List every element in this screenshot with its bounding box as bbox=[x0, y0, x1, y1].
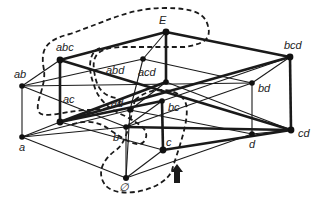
label-d: d bbox=[249, 138, 256, 150]
edge-thick-abc-E bbox=[60, 32, 166, 60]
node-ad bbox=[127, 107, 133, 113]
label-acd: acd bbox=[138, 66, 157, 78]
node-acd bbox=[163, 79, 169, 85]
node-a bbox=[19, 134, 25, 140]
node-ab bbox=[19, 83, 25, 89]
edge-bd-bcd bbox=[252, 57, 290, 83]
thin-edges bbox=[22, 32, 291, 178]
edge-thick-b-cd bbox=[126, 127, 291, 130]
edge-thick-c-cd bbox=[163, 130, 291, 150]
node-bc bbox=[159, 98, 165, 104]
edge-c-empty bbox=[126, 150, 163, 178]
label-ad: ad bbox=[111, 97, 124, 109]
node-abc bbox=[57, 57, 64, 64]
edge-a-empty bbox=[22, 137, 126, 178]
edge-thick-E-bcd bbox=[166, 32, 290, 57]
label-cd: cd bbox=[298, 127, 311, 139]
label-a: a bbox=[19, 141, 25, 153]
edge-thick-bc-c bbox=[162, 101, 163, 150]
node-ac bbox=[57, 119, 64, 126]
label-E: E bbox=[159, 14, 167, 26]
node-bcd bbox=[287, 54, 294, 61]
label-bcd: bcd bbox=[284, 39, 303, 51]
hasse-diagram: Eabcabdbcdabacdbdcdacadbcabcd∅ bbox=[0, 0, 323, 208]
thick-edges bbox=[60, 32, 291, 150]
label-abc: abc bbox=[56, 41, 74, 53]
label-empty: ∅ bbox=[119, 181, 129, 193]
edge-abd-bd bbox=[143, 59, 252, 83]
label-ac: ac bbox=[63, 93, 75, 105]
label-c: c bbox=[166, 136, 172, 148]
edge-ad-empty bbox=[126, 110, 130, 178]
dashed-region-middle bbox=[70, 48, 146, 144]
edge-d-empty bbox=[126, 134, 252, 178]
edge-thick-bcd-cd bbox=[290, 57, 291, 130]
node-b bbox=[123, 124, 129, 130]
node-bd bbox=[249, 80, 255, 86]
label-ab: ab bbox=[14, 68, 26, 80]
node-cd bbox=[288, 127, 295, 134]
label-bc: bc bbox=[168, 101, 180, 113]
label-b: b bbox=[113, 131, 119, 143]
label-bd: bd bbox=[258, 82, 271, 94]
node-d bbox=[249, 131, 255, 137]
node-E bbox=[163, 29, 170, 36]
node-abd bbox=[140, 56, 146, 62]
edge-ab-abd bbox=[22, 59, 143, 86]
label-abd: abd bbox=[106, 64, 125, 76]
